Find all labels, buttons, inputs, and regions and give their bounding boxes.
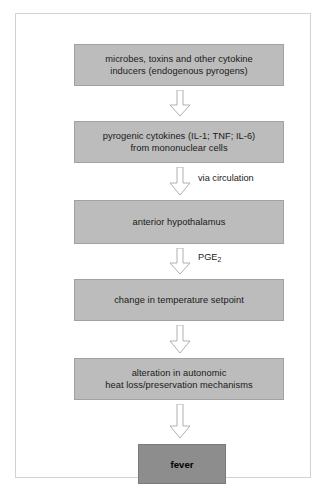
down-arrow-icon	[168, 167, 192, 196]
flow-box-inducers-label: microbes, toxins and other cytokine indu…	[99, 53, 258, 77]
down-arrow-glyph	[168, 90, 192, 117]
down-arrow-glyph	[168, 404, 192, 440]
flow-box-fever-label: fever	[171, 459, 194, 470]
arrow-label-pge2-subscript: 2	[217, 256, 221, 263]
fever-pathogenesis-figure: microbes, toxins and other cytokine indu…	[0, 0, 326, 492]
flow-box-cytokines-label: pyrogenic cytokines (IL-1; TNF; IL-6) fr…	[97, 130, 262, 154]
arrow-label-pge2: PGE2	[198, 252, 221, 263]
flow-box-autonomic-alteration-label: alteration in autonomic heat loss/preser…	[99, 367, 258, 391]
down-arrow-glyph	[168, 248, 192, 275]
flow-box-temperature-setpoint: change in temperature setpoint	[74, 279, 284, 321]
down-arrow-icon	[168, 325, 192, 354]
flow-box-anterior-hypothalamus-label: anterior hypothalamus	[126, 216, 231, 228]
down-arrow-icon	[168, 404, 192, 440]
figure-frame: microbes, toxins and other cytokine indu…	[15, 13, 311, 478]
flow-box-anterior-hypothalamus: anterior hypothalamus	[74, 200, 284, 244]
flow-box-temperature-setpoint-label: change in temperature setpoint	[108, 294, 250, 306]
flow-box-cytokines: pyrogenic cytokines (IL-1; TNF; IL-6) fr…	[74, 121, 284, 163]
down-arrow-icon	[168, 90, 192, 117]
flow-box-autonomic-alteration: alteration in autonomic heat loss/preser…	[74, 358, 284, 400]
down-arrow-icon	[168, 248, 192, 275]
arrow-label-via-circulation: via circulation	[198, 173, 254, 184]
flow-box-fever: fever	[138, 444, 226, 484]
arrow-label-pge2-prefix: PGE	[198, 252, 217, 262]
down-arrow-glyph	[168, 325, 192, 354]
flow-box-inducers: microbes, toxins and other cytokine indu…	[74, 44, 284, 86]
down-arrow-glyph	[168, 167, 192, 196]
